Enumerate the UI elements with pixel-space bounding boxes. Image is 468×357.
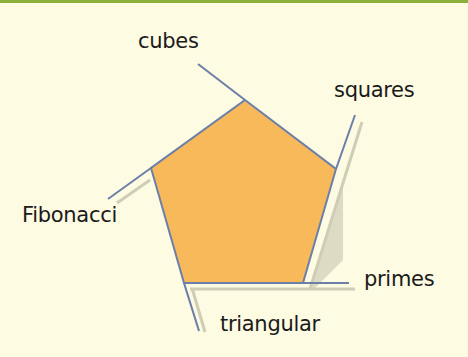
pentagon-shape — [151, 100, 336, 283]
label-cubes: cubes — [138, 31, 199, 52]
label-squares: squares — [334, 80, 414, 101]
pentagon-diagram — [0, 0, 468, 357]
label-triangular: triangular — [220, 314, 320, 335]
label-primes: primes — [364, 269, 434, 290]
label-fibonacci: Fibonacci — [22, 205, 117, 226]
